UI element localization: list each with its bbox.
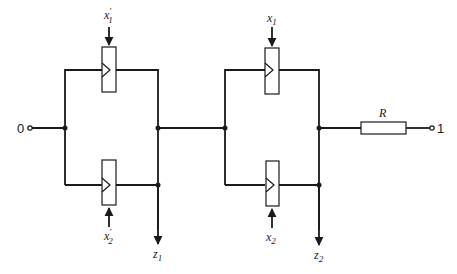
z1-label: z1 <box>152 247 162 263</box>
stage2-right-rail <box>279 70 319 230</box>
stage1-bottom-box <box>102 160 116 205</box>
stage2-left-rail <box>225 70 265 185</box>
stage2-bottom-element: x2 <box>265 161 279 246</box>
input-terminal-label: 0 <box>17 121 24 136</box>
circuit-diagram: 0 x′1 x′2 z1 <box>0 0 457 274</box>
resistor-label: R <box>378 106 387 120</box>
junction-dot <box>63 126 68 131</box>
junction-dot <box>223 126 228 131</box>
stage2: x1 x2 z2 <box>223 11 324 264</box>
stage1: x′1 x′2 z1 <box>63 6 163 263</box>
stage1-bottom-label: x′2 <box>103 227 113 246</box>
stage2-top-element: x1 <box>265 11 279 94</box>
stage1-left-rail <box>65 70 102 185</box>
stage1-right-rail <box>116 70 158 230</box>
z2-label: z2 <box>313 248 324 264</box>
stage2-top-label: x1 <box>266 11 277 27</box>
output-terminal-circle <box>430 126 434 130</box>
input-terminal: 0 <box>17 121 65 136</box>
resistor-branch: R 1 <box>319 106 444 136</box>
output-terminal-label: 1 <box>437 121 444 136</box>
resistor <box>361 122 406 134</box>
junction-dot <box>156 183 161 188</box>
stage1-bottom-element: x′2 <box>102 160 116 246</box>
stage2-bottom-label: x2 <box>265 230 276 246</box>
junction-dot <box>317 183 322 188</box>
stage1-top-element: x′1 <box>102 6 116 92</box>
stage1-top-label: x′1 <box>103 6 113 25</box>
input-terminal-circle <box>28 126 32 130</box>
